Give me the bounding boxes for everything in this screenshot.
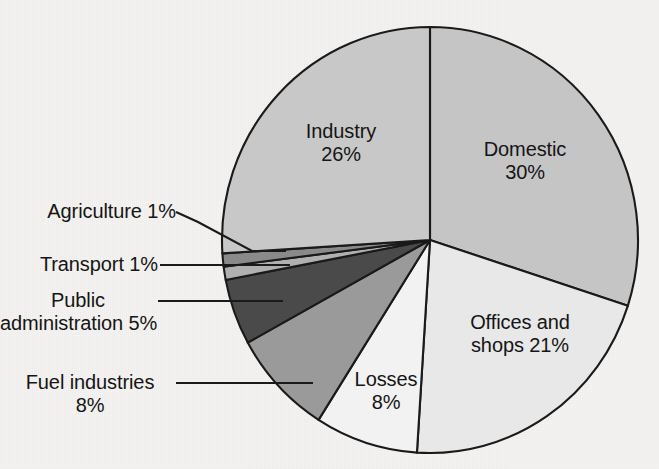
slice-label-offices-and-shops-name: Offices and <box>440 311 600 334</box>
slice-label-fuel-industries: Fuel industries 8% <box>6 371 174 418</box>
slice-label-offices-and-shops: Offices and shops 21% <box>440 311 600 358</box>
slice-label-transport-text: Transport 1% <box>6 253 158 276</box>
slice-label-industry-value: 26% <box>281 143 401 166</box>
slice-label-domestic: Domestic 30% <box>460 138 590 185</box>
slice-label-losses: Losses 8% <box>340 368 432 415</box>
pie-chart-figure: Industry 26% Domestic 30% Offices and sh… <box>0 0 659 469</box>
slice-label-public-administration-line1: Public <box>0 289 156 312</box>
slice-label-public-administration-line2: administration 5% <box>0 312 156 335</box>
slice-label-transport: Transport 1% <box>6 253 158 276</box>
slice-label-fuel-industries-line2: 8% <box>6 394 174 417</box>
slice-label-public-administration: Public administration 5% <box>0 289 156 336</box>
slice-label-domestic-name: Domestic <box>460 138 590 161</box>
slice-label-industry: Industry 26% <box>281 120 401 167</box>
slice-label-fuel-industries-line1: Fuel industries <box>6 371 174 394</box>
slice-label-industry-name: Industry <box>281 120 401 143</box>
slice-label-agriculture-text: Agriculture 1% <box>6 200 176 223</box>
slice-label-offices-and-shops-value: shops 21% <box>440 334 600 357</box>
slice-label-losses-name: Losses <box>340 368 432 391</box>
slice-label-losses-value: 8% <box>340 391 432 414</box>
slice-label-domestic-value: 30% <box>460 161 590 184</box>
slice-label-agriculture: Agriculture 1% <box>6 200 176 223</box>
